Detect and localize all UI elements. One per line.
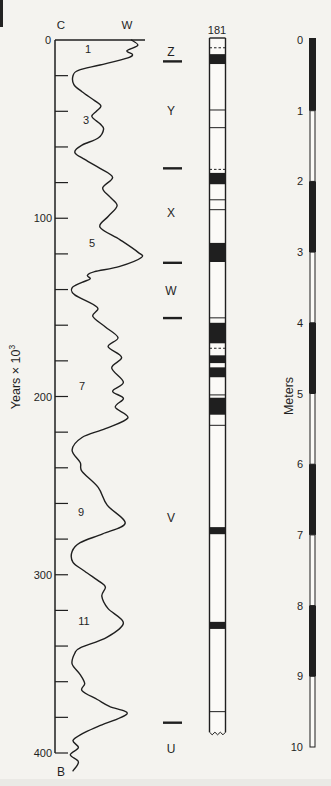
zone-letter-V: V [167,511,175,525]
years-axis-label-superscript: 3 [7,345,17,350]
meters-white-segment [310,535,315,606]
zone-letter-X: X [167,206,175,220]
stage-label-11: 11 [78,615,89,627]
meters-white-segment [310,111,315,182]
core-black-band [210,323,226,344]
age-origin-label: 0 [45,34,51,46]
panel-letter-label: B [57,765,65,779]
core-black-band [210,527,226,534]
cold-axis-label: C [57,19,65,31]
scan-edge-artifact [0,0,3,27]
meters-white-segment [310,676,315,747]
zone-letter-U: U [167,742,176,756]
zone-letter-Z: Z [167,45,174,59]
meters-tick-label-5: 5 [297,388,303,400]
meters-black-segment [309,606,316,677]
core-black-band [210,243,226,262]
meters-tick-label-7: 7 [297,529,303,541]
core-black-band [210,622,226,629]
zone-letter-W: W [165,284,177,298]
meters-white-segment [310,394,315,465]
meters-white-segment [310,252,315,323]
meters-axis-label: Meters [282,377,296,415]
stage-label-7: 7 [79,380,85,392]
age-tick-label: 100 [34,212,52,224]
meters-tick-label-3: 3 [297,246,303,258]
figure-page: 100200300400 1357911 ZYXWVU 012345678910… [0,0,331,786]
core-black-band [210,173,226,184]
meters-tick-label-4: 4 [297,317,303,329]
age-tick-label: 300 [34,569,52,581]
scan-shadow [0,779,331,786]
meters-tick-label-10: 10 [291,741,303,753]
meters-tick-label-6: 6 [297,458,303,470]
meters-tick-label-0: 0 [297,34,303,46]
stage-label-1: 1 [85,43,91,55]
stratigraphy-figure: 100200300400 1357911 ZYXWVU 012345678910… [0,0,331,786]
stage-label-9: 9 [78,506,84,518]
age-tick-label: 400 [34,747,52,759]
core-black-band [210,54,226,64]
stage-label-3: 3 [83,114,89,126]
meters-tick-label-9: 9 [297,670,303,682]
warm-axis-label: W [122,19,133,31]
meters-tick-label-1: 1 [297,105,303,117]
years-axis-label: Years × 103 [7,345,23,410]
zone-letter-Y: Y [167,104,175,118]
meters-tick-label-8: 8 [297,600,303,612]
core-black-band [210,398,226,415]
core-lithology-column [210,38,226,735]
meters-black-segment [309,464,316,535]
meters-black-segment [309,323,316,394]
meters-black-segment [309,181,316,252]
core-black-band [210,355,226,363]
meters-black-segment [309,38,316,111]
core-black-band [210,367,226,377]
core-number-label: 181 [208,24,226,36]
stage-label-5: 5 [89,237,95,249]
meters-tick-label-2: 2 [297,175,303,187]
years-axis-label-text: Years × 10 [9,349,23,409]
age-tick-label: 200 [34,391,52,403]
